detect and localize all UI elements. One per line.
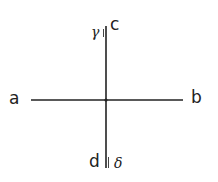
- diagram-canvas: a b c d γ δ: [0, 0, 218, 182]
- label-d: d: [89, 153, 100, 170]
- label-gamma: γ: [91, 25, 99, 39]
- label-c: c: [110, 16, 119, 33]
- diagram-lines: [0, 0, 218, 182]
- label-delta: δ: [114, 156, 122, 170]
- label-b: b: [191, 89, 202, 106]
- label-a: a: [9, 90, 19, 107]
- intersection-point: [104, 98, 107, 101]
